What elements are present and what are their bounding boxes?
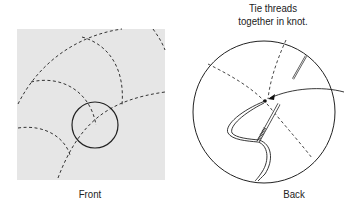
front-caption: Front [64,188,117,200]
needle-large [258,104,279,142]
stitch-line-vertical [268,40,286,99]
back-view-illustration [172,0,345,217]
front-view-illustration [0,0,172,217]
front-view-panel: Front [0,0,172,217]
magnified-circle [193,41,335,183]
back-view-panel: Tie threads together in knot. Back [172,0,345,217]
fabric-swatch [17,29,165,180]
arrow-head-icon [268,94,275,100]
stitch-line-diagonal [208,64,312,158]
thread-loop [227,101,270,181]
back-caption: Back [268,188,321,200]
